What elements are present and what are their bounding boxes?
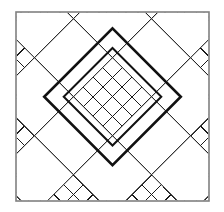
lattice-svg [0, 0, 224, 212]
quilt-block-figure [0, 0, 224, 212]
